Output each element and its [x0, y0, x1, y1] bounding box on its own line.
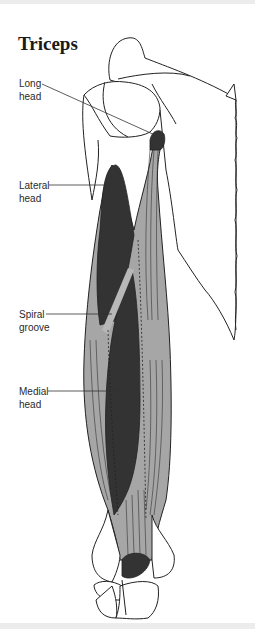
label-line: Medial	[19, 385, 48, 398]
olecranon-tendon	[122, 553, 150, 578]
label-medial-head: Medial head	[19, 385, 48, 411]
label-line: Spiral	[19, 308, 50, 321]
label-spiral-groove: Spiral groove	[19, 308, 50, 334]
label-long-head: Long head	[19, 77, 41, 103]
triceps-muscle	[84, 131, 171, 560]
label-line: Lateral	[19, 179, 50, 192]
bottom-border	[0, 623, 255, 629]
label-line: head	[19, 192, 50, 205]
label-lateral-head: Lateral head	[19, 179, 50, 205]
label-line: head	[19, 398, 48, 411]
label-line: groove	[19, 321, 50, 334]
label-line: Long	[19, 77, 41, 90]
label-line: head	[19, 90, 41, 103]
